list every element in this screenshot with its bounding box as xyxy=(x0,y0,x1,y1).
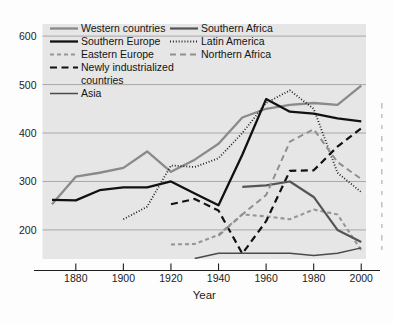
margin-text-fragment xyxy=(381,158,383,162)
legend-label: Western countries xyxy=(81,22,165,34)
x-tick-label: 1940 xyxy=(207,272,231,284)
legend-label: Asia xyxy=(81,87,102,99)
legend-label: Latin America xyxy=(201,35,265,47)
legend-label: Southern Europe xyxy=(81,35,161,47)
x-tick-label: 1980 xyxy=(302,272,326,284)
legend-col1-entry: countries xyxy=(81,74,124,86)
x-tick-label: 1880 xyxy=(64,272,88,284)
legend-label: Eastern Europe xyxy=(81,48,154,60)
y-tick-label: 400 xyxy=(19,127,37,139)
margin-text-fragment xyxy=(381,103,383,109)
margin-text-fragment xyxy=(381,235,383,241)
margin-text-fragment xyxy=(381,246,383,250)
margin-text-fragment xyxy=(381,180,383,184)
margin-text-fragment xyxy=(381,191,383,195)
y-tick-label: 600 xyxy=(19,30,37,42)
margin-text-fragment xyxy=(381,136,383,142)
y-tick-label: 200 xyxy=(19,224,37,236)
x-tick-label: 2000 xyxy=(350,272,374,284)
y-tick-label: 500 xyxy=(19,79,37,91)
legend-label: Newly industrialized xyxy=(81,61,174,73)
legend-label: Northern Africa xyxy=(201,48,271,60)
x-tick-label: 1900 xyxy=(112,272,136,284)
margin-text-fragment xyxy=(381,202,383,208)
margin-text-fragment xyxy=(381,114,383,118)
legend-label: countries xyxy=(81,74,124,86)
margin-text-fragment xyxy=(381,213,383,217)
y-tick-label: 300 xyxy=(19,175,37,187)
x-tick-label: 1920 xyxy=(159,272,183,284)
legend-label: Southern Africa xyxy=(201,22,273,34)
x-tick-label: 1960 xyxy=(254,272,278,284)
line-chart-figure: 200300400500600 188019001920194019601980… xyxy=(0,0,393,323)
margin-text-fragment xyxy=(381,147,383,151)
margin-text-fragment xyxy=(381,125,383,129)
margin-text-fragment xyxy=(381,224,383,228)
x-axis-title-text: Year xyxy=(193,289,216,301)
margin-text-fragment xyxy=(381,169,383,175)
x-axis-title: Year xyxy=(193,289,216,301)
